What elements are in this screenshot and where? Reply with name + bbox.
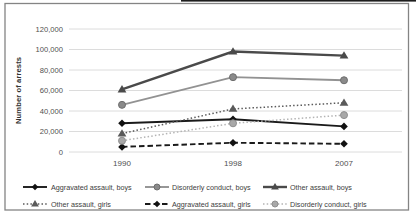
legend-label: Other assault, girls bbox=[51, 200, 111, 209]
y-tick-label: 20,000 bbox=[40, 127, 63, 136]
legend-marker-diamond bbox=[154, 201, 161, 208]
series-marker-disorderly-conduct-boys bbox=[341, 77, 348, 84]
series-marker-aggravated-assault-girls bbox=[229, 139, 237, 147]
series-marker-other-assault-girls bbox=[340, 98, 349, 105]
y-tick-label: 120,000 bbox=[36, 25, 63, 34]
figure-border bbox=[5, 4, 409, 211]
series-marker-aggravated-assault-boys bbox=[118, 120, 126, 128]
series-marker-disorderly-conduct-girls bbox=[230, 120, 237, 127]
legend-marker-triangle bbox=[31, 200, 39, 206]
series-marker-disorderly-conduct-girls bbox=[341, 112, 348, 119]
x-tick-label: 2007 bbox=[335, 159, 353, 168]
legend-marker-circle bbox=[272, 201, 278, 207]
legend-label: Other assault, boys bbox=[290, 183, 352, 192]
line-chart-canvas: 020,00040,00060,00080,000100,000120,0001… bbox=[0, 0, 416, 219]
series-marker-other-assault-girls bbox=[229, 105, 238, 112]
screenshot-crop-artifact bbox=[181, 0, 416, 2]
legend-label: Disorderly conduct, boys bbox=[172, 183, 251, 192]
series-marker-disorderly-conduct-boys bbox=[119, 101, 126, 108]
legend-marker-circle bbox=[154, 184, 160, 190]
series-line-other-assault-boys bbox=[122, 52, 344, 90]
y-tick-label: 40,000 bbox=[40, 107, 63, 116]
y-axis-title: Number of arrests bbox=[14, 57, 23, 124]
series-marker-disorderly-conduct-girls bbox=[119, 137, 126, 144]
legend-marker-diamond bbox=[32, 184, 39, 191]
y-tick-label: 80,000 bbox=[40, 66, 63, 75]
series-marker-disorderly-conduct-boys bbox=[230, 74, 237, 81]
y-tick-label: 60,000 bbox=[40, 86, 63, 95]
series-marker-other-assault-girls bbox=[118, 129, 127, 136]
legend-label: Aggravated assault, girls bbox=[172, 200, 251, 209]
series-marker-aggravated-assault-girls bbox=[340, 140, 348, 148]
series-line-disorderly-conduct-boys bbox=[122, 77, 344, 105]
series-marker-aggravated-assault-boys bbox=[340, 123, 348, 131]
legend-label: Disorderly conduct, girls bbox=[290, 200, 367, 209]
chart-figure: 020,00040,00060,00080,000100,000120,0001… bbox=[0, 0, 416, 219]
y-tick-label: 0 bbox=[59, 148, 63, 157]
y-tick-label: 100,000 bbox=[36, 45, 63, 54]
legend-label: Aggravated assault, boys bbox=[51, 183, 132, 192]
x-tick-label: 1998 bbox=[224, 159, 242, 168]
x-tick-label: 1990 bbox=[113, 159, 131, 168]
